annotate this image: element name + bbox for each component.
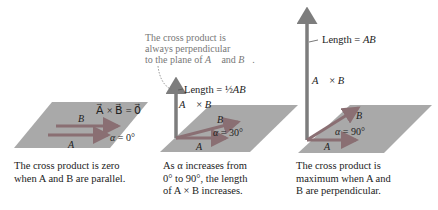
- vec-b-label: B⃗: [78, 113, 92, 124]
- panel-30deg: The cross product is always perpendicula…: [145, 32, 298, 152]
- note-pointer: [158, 66, 172, 90]
- length-label: Length = ½AB: [184, 84, 246, 95]
- alpha-label: α = 90°: [335, 126, 365, 137]
- caption-line: of A × B increases.: [163, 185, 248, 198]
- caption-line: The cross product is: [296, 160, 391, 173]
- caption-line: B are perpendicular.: [296, 185, 391, 198]
- cross-label: A⃗ × B⃗: [311, 75, 352, 86]
- panel-parallel: A⃗ × B⃗ = 0⃗ B⃗ A⃗ α = 0°: [14, 102, 148, 150]
- note-line-1: The cross product is: [145, 32, 226, 43]
- caption-line: when A and B are parallel.: [14, 173, 125, 186]
- vec-b-label: B⃗: [217, 114, 231, 125]
- alpha-label: α = 30°: [213, 127, 243, 138]
- caption-panel-3: The cross product is maximum when A and …: [296, 160, 391, 198]
- caption-line: The cross product is zero: [14, 160, 125, 173]
- length-leader: [178, 89, 183, 90]
- vec-a-label: A⃗: [67, 139, 82, 150]
- result-label: A⃗ × B⃗ = 0⃗: [96, 103, 141, 116]
- vec-a-label: A⃗: [195, 141, 210, 152]
- vec-b-label: B⃗: [356, 110, 370, 121]
- caption-line: maximum when A and: [296, 173, 391, 186]
- caption-panel-1: The cross product is zero when A and B a…: [14, 160, 125, 185]
- length-leader: [309, 40, 318, 42]
- caption-line: As α increases from: [163, 160, 248, 173]
- caption-panel-2: As α increases from 0° to 90°, the lengt…: [163, 160, 248, 198]
- alpha-label: α = 0°: [110, 132, 135, 143]
- cross-label: A⃗ × B⃗: [178, 99, 219, 110]
- note-line-3: to the plane of A⃗ and B⃗.: [145, 54, 255, 65]
- caption-line: 0° to 90°, the length: [163, 173, 248, 186]
- panel-90deg: Length = AB A⃗ × B⃗ B⃗ α = 90° A⃗: [298, 10, 432, 153]
- vec-a-label: A⃗: [323, 141, 338, 152]
- length-label: Length = AB: [322, 34, 376, 45]
- note-line-2: always perpendicular: [145, 43, 231, 54]
